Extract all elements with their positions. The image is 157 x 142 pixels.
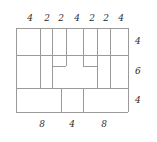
bottom-dimension-label-2: 4 — [69, 120, 75, 129]
top-dimension-label-3: 2 — [58, 14, 64, 23]
top-dimension-label-2: 2 — [44, 14, 50, 23]
horizontal-lines — [16, 28, 128, 112]
right-dimension-label-3: 4 — [135, 96, 141, 105]
bottom-dimension-label-3: 8 — [101, 120, 107, 129]
right-dimension-label-1: 4 — [135, 37, 141, 46]
diagram-canvas: 4 2 2 4 2 2 4 8 4 8 4 6 4 — [0, 0, 157, 142]
top-dimension-label-5: 2 — [89, 14, 95, 23]
top-dimension-label-4: 4 — [74, 14, 80, 23]
right-dimension-label-2: 6 — [135, 67, 141, 76]
top-dimension-label-1: 4 — [27, 14, 33, 23]
vertical-lines — [16, 28, 128, 112]
bottom-dimension-label-1: 8 — [39, 120, 45, 129]
top-dimension-label-7: 4 — [118, 14, 124, 23]
top-dimension-label-6: 2 — [103, 14, 109, 23]
